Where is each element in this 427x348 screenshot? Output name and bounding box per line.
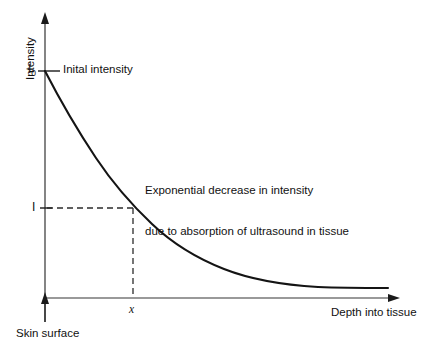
y-tick-label-i: I (32, 200, 35, 214)
initial-intensity-callout: Inital intensity (63, 63, 133, 77)
annotation-line-1: Exponential decrease in intensity (145, 184, 349, 198)
y-axis-arrowhead (41, 12, 49, 24)
y-tick-label-i0: I0 (28, 62, 36, 76)
annotation-text: Exponential decrease in intensity due to… (145, 157, 349, 252)
x-tick-label-x: x (129, 303, 134, 317)
i0-subscript: 0 (31, 68, 36, 78)
annotation-line-2: due to absorption of ultrasound in tissu… (145, 225, 349, 239)
skin-surface-label: Skin surface (16, 327, 79, 341)
x-axis-arrowhead (388, 294, 400, 302)
x-axis-title: Depth into tissue (331, 306, 417, 320)
